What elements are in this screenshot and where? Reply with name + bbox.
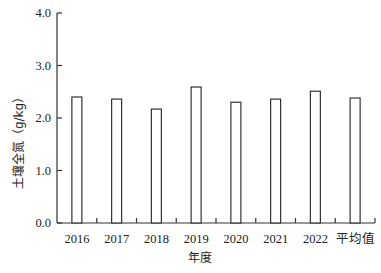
bar-2020 [231,102,241,223]
y-tick-label: 0.0 [35,216,51,230]
bar-2017 [112,99,122,223]
bar-2018 [151,109,161,223]
bar-2019 [191,87,201,223]
bar-2022 [310,91,320,223]
bar-2016 [72,97,82,223]
x-tick-label: 2018 [144,232,169,246]
bar-2021 [271,99,281,223]
x-tick-label: 2019 [184,232,209,246]
y-tick-label: 2.0 [35,111,51,125]
x-tick-label: 2021 [263,232,288,246]
bar-chart: 0.01.02.03.04.0 201620172018201920202021… [0,0,381,273]
y-tick-label: 3.0 [35,59,51,73]
y-tick-label: 1.0 [35,164,51,178]
y-axis-title: 土壤全氮（g/kg） [11,91,26,189]
y-axis: 0.01.02.03.04.0 [35,6,62,230]
bar-平均值 [350,98,360,223]
x-tick-label: 2017 [104,232,129,246]
x-tick-label: 2020 [223,232,248,246]
x-axis: 2016201720182019202020212022平均值 [57,218,375,246]
x-tick-label: 2022 [303,232,328,246]
x-axis-title: 年度 [188,250,212,265]
x-tick-label: 平均值 [336,231,375,246]
x-tick-label: 2016 [64,232,89,246]
bars [72,87,360,223]
y-tick-label: 4.0 [35,6,51,20]
